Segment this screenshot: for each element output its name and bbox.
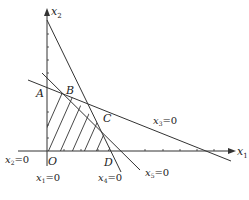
line-x4-eq-0 (47, 20, 121, 172)
origin-label: O (48, 155, 57, 168)
line-x3-eq-0 (28, 80, 231, 161)
label-x5-eq-0: x5=0 (145, 167, 169, 179)
point-c-label: C (103, 112, 112, 125)
x2-axis-label: x2 (51, 5, 62, 20)
label-x4-eq-0: x4=0 (98, 172, 122, 184)
point-b-label: B (65, 84, 74, 97)
label-x2-eq-0: x2=0 (5, 154, 29, 166)
point-a-label: A (35, 87, 44, 100)
x1-axis (18, 148, 236, 154)
label-x1-eq-0: x1=0 (36, 172, 60, 184)
point-d-label: D (103, 156, 113, 169)
x1-axis-label: x1 (237, 145, 248, 160)
lp-diagram: x2 x1 A B C D O x1=0 x2=0 x3=0 x4=0 x5=0 (0, 0, 249, 200)
label-x3-eq-0: x3=0 (153, 115, 177, 127)
